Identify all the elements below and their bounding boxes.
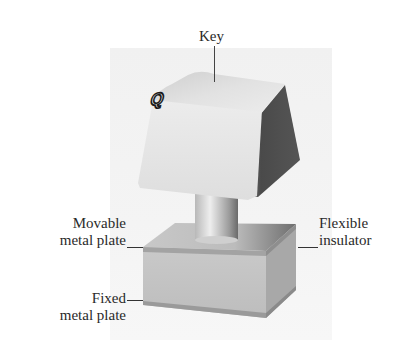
keycap: Q	[138, 72, 300, 200]
label-fixed-line2: metal plate	[20, 307, 126, 324]
label-movable-metal-plate: Movable metal plate	[20, 215, 126, 249]
movable-plate-leader-line	[127, 247, 143, 248]
label-key: Key	[199, 28, 224, 45]
key-leader-line	[214, 46, 215, 82]
label-flexible-line2: insulator	[319, 232, 372, 249]
fixed-plate-leader-line	[127, 300, 143, 301]
label-flexible-line1: Flexible	[319, 215, 372, 232]
label-fixed-line1: Fixed	[20, 290, 126, 307]
label-movable-line2: metal plate	[20, 232, 126, 249]
label-fixed-metal-plate: Fixed metal plate	[20, 290, 126, 324]
label-flexible-insulator: Flexible insulator	[319, 215, 372, 249]
insulator-leader-line	[298, 247, 318, 248]
label-movable-line1: Movable	[20, 215, 126, 232]
keycap-front-face	[138, 100, 262, 200]
